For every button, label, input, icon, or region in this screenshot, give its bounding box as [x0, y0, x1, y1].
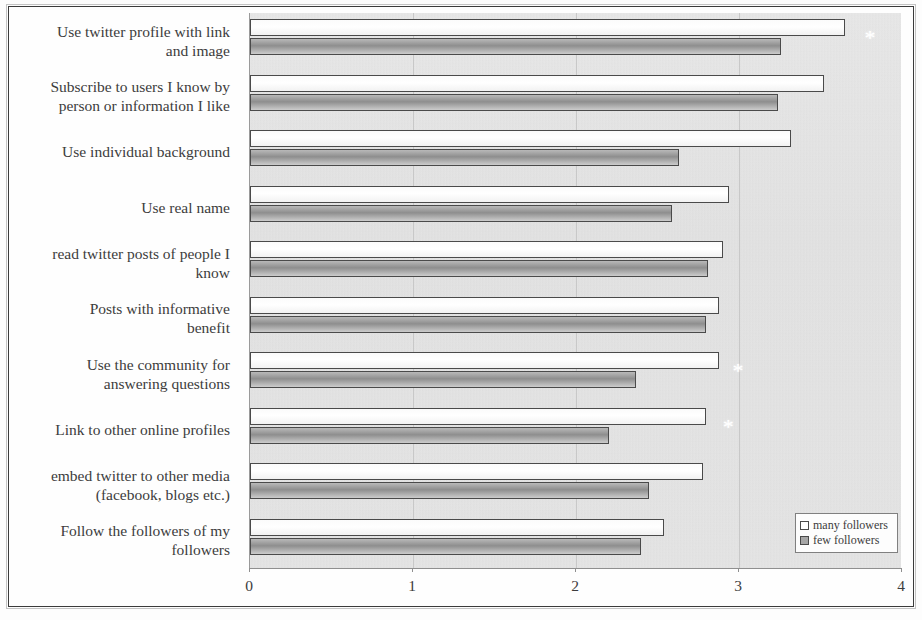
bar-group [250, 124, 901, 180]
bar-many-followers [250, 130, 791, 147]
category-label-line: Use the community for [2, 355, 230, 374]
legend-swatch-few-followers-icon [800, 536, 809, 545]
bar-group [250, 457, 901, 513]
category-label-line: (facebook, blogs etc.) [2, 485, 230, 504]
category-label-line: Link to other online profiles [2, 420, 230, 439]
significance-star-icon: * [865, 27, 876, 49]
category-label: Link to other online profiles [2, 420, 230, 439]
bar-group [250, 180, 901, 236]
category-label: Use twitter profile with linkand image [2, 22, 230, 60]
x-axis-tick-label: 3 [734, 577, 742, 595]
category-label-line: followers [2, 540, 230, 559]
category-label-line: Subscribe to users I know by [2, 77, 230, 96]
category-label-line: read twitter posts of people I [2, 244, 230, 263]
bar-many-followers [250, 297, 719, 314]
category-label: Follow the followers of myfollowers [2, 521, 230, 559]
x-axis-tick [249, 568, 250, 572]
category-label: embed twitter to other media(facebook, b… [2, 466, 230, 504]
category-label-line: Posts with informative [2, 299, 230, 318]
bar-many-followers [250, 186, 729, 203]
bar-few-followers [250, 316, 706, 333]
bar-few-followers [250, 260, 708, 277]
bar-few-followers [250, 149, 679, 166]
legend-item-many-followers: many followers [800, 518, 892, 533]
category-label-line: Use real name [2, 198, 230, 217]
x-axis-tick [575, 568, 576, 572]
plot-area: *** [249, 13, 901, 568]
significance-star-icon: * [732, 360, 743, 382]
bar-group [250, 69, 901, 125]
chart-root: Use twitter profile with linkand imageSu… [0, 0, 922, 620]
bar-group [250, 402, 901, 458]
x-axis-tick [901, 568, 902, 572]
x-axis-tick-label: 0 [245, 577, 253, 595]
x-axis-tick-label: 1 [408, 577, 416, 595]
legend-label-many-followers: many followers [813, 518, 888, 533]
bar-group [250, 235, 901, 291]
bar-few-followers [250, 94, 778, 111]
legend-label-few-followers: few followers [813, 533, 879, 548]
significance-star-icon: * [723, 416, 734, 438]
category-label-line: Use twitter profile with link [2, 22, 230, 41]
category-label: Use real name [2, 198, 230, 217]
bar-many-followers [250, 463, 703, 480]
category-label: Use the community foranswering questions [2, 355, 230, 393]
category-label-line: embed twitter to other media [2, 466, 230, 485]
bar-few-followers [250, 538, 641, 555]
category-label-line: Use individual background [2, 142, 230, 161]
legend-swatch-many-followers-icon [800, 521, 809, 530]
legend-item-few-followers: few followers [800, 533, 892, 548]
bar-few-followers [250, 38, 781, 55]
x-axis-tick-label: 2 [571, 577, 579, 595]
category-label-line: answering questions [2, 374, 230, 393]
bar-group [250, 13, 901, 69]
category-label: Posts with informativebenefit [2, 299, 230, 337]
category-label: Subscribe to users I know byperson or in… [2, 77, 230, 115]
bar-group [250, 346, 901, 402]
category-label-line: and image [2, 41, 230, 60]
x-axis-tick [412, 568, 413, 572]
category-label-line: benefit [2, 318, 230, 337]
bar-group [250, 291, 901, 347]
category-label-line: person or information I like [2, 96, 230, 115]
bar-few-followers [250, 427, 609, 444]
bar-many-followers [250, 408, 706, 425]
bar-many-followers [250, 19, 845, 36]
x-axis-tick [738, 568, 739, 572]
bar-many-followers [250, 75, 824, 92]
bar-many-followers [250, 519, 664, 536]
legend: many followers few followers [795, 513, 898, 553]
bar-few-followers [250, 205, 672, 222]
category-label: Use individual background [2, 142, 230, 161]
category-axis-labels: Use twitter profile with linkand imageSu… [0, 13, 240, 568]
bar-many-followers [250, 241, 723, 258]
category-label-line: know [2, 263, 230, 282]
x-axis-tick-label: 4 [897, 577, 905, 595]
category-label: read twitter posts of people Iknow [2, 244, 230, 282]
bar-few-followers [250, 482, 649, 499]
bar-many-followers [250, 352, 719, 369]
category-label-line: Follow the followers of my [2, 521, 230, 540]
bar-few-followers [250, 371, 636, 388]
